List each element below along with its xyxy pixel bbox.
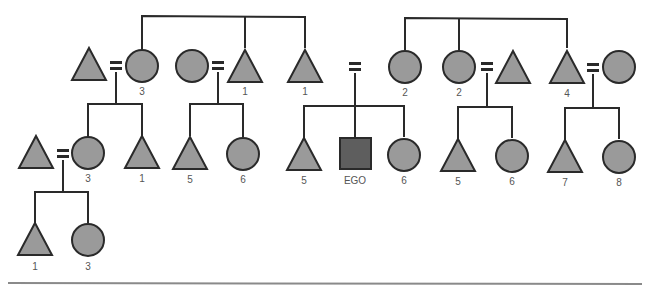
kin-label: 1 (302, 86, 308, 97)
sibling-bar (35, 192, 88, 224)
marriage-equals-icon (212, 61, 224, 70)
kin-label: 6 (509, 176, 515, 187)
female-circle-icon (72, 224, 104, 256)
marriage-equals-icon (349, 62, 361, 71)
female-circle-icon (603, 51, 635, 83)
male-triangle-icon (288, 50, 322, 82)
male-triangle-icon (19, 136, 53, 168)
marriage-equals-icon (587, 63, 599, 72)
sibling-bar (458, 107, 512, 139)
marriage-equals-icon (481, 62, 493, 71)
sibling-bar (565, 108, 619, 140)
connector-lines (35, 16, 619, 224)
kin-label: 3 (139, 86, 145, 97)
children-labels: 1 3 (32, 261, 91, 272)
kin-label: 1 (242, 86, 248, 97)
marriage-equals-icon (110, 61, 122, 70)
female-circle-icon (72, 137, 104, 169)
male-triangle-icon (287, 138, 321, 170)
female-circle-icon (389, 51, 421, 83)
kin-label: 2 (456, 87, 462, 98)
female-circle-icon (443, 51, 475, 83)
male-triangle-icon (441, 139, 475, 171)
female-circle-icon (126, 50, 158, 82)
kin-label: 3 (85, 173, 91, 184)
ego-generation-labels: 3 1 5 6 5 EGO 6 5 6 7 8 (85, 173, 622, 188)
kin-label: 1 (32, 261, 38, 272)
kinship-diagram: 3 1 1 2 2 4 3 1 5 6 5 EGO 6 5 6 7 8 (0, 0, 652, 288)
kin-label: 6 (240, 174, 246, 185)
kin-label: 8 (616, 177, 622, 188)
kin-label: 5 (301, 175, 307, 186)
male-triangle-icon (18, 223, 52, 255)
ego-square-icon (340, 138, 371, 169)
sibling-bar (190, 104, 243, 137)
female-circle-icon (496, 140, 528, 172)
male-triangle-icon (173, 137, 207, 169)
parent-generation (72, 48, 635, 83)
sibling-bar-left (142, 16, 305, 50)
male-triangle-icon (228, 50, 262, 82)
ego-label: EGO (344, 175, 366, 186)
female-circle-icon (176, 50, 208, 82)
kin-label: 5 (455, 176, 461, 187)
female-circle-icon (388, 139, 420, 171)
female-circle-icon (227, 138, 259, 170)
bottom-rule (8, 283, 642, 284)
kin-label: 5 (187, 174, 193, 185)
sibling-bar (88, 104, 142, 137)
kin-label: 3 (85, 261, 91, 272)
sibling-bar-right (405, 18, 567, 50)
kin-label: 1 (139, 173, 145, 184)
children-generation (18, 223, 104, 256)
marriage-equals-icon (57, 149, 69, 158)
female-circle-icon (603, 141, 635, 173)
kin-label: 4 (564, 88, 570, 99)
male-triangle-icon (496, 51, 530, 83)
ego-generation (19, 136, 635, 173)
male-triangle-icon (548, 140, 582, 172)
male-triangle-icon (125, 136, 159, 168)
male-triangle-icon (550, 51, 584, 83)
kin-label: 7 (562, 177, 568, 188)
kin-label: 6 (401, 175, 407, 186)
kin-label: 2 (402, 87, 408, 98)
male-triangle-icon (72, 48, 106, 80)
